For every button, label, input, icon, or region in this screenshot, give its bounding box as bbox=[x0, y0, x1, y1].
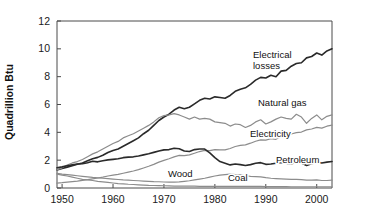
annotation-electricity: Electricity bbox=[250, 128, 291, 139]
x-tick-label-1980: 1980 bbox=[203, 193, 227, 205]
annotation-wood: Wood bbox=[168, 168, 193, 179]
chart-container: 024681012 195019601970198019902000 Quadr… bbox=[0, 0, 365, 223]
series-layer bbox=[57, 49, 332, 187]
annotation-natural-gas: Natural gas bbox=[258, 97, 307, 108]
y-tick-label-2: 2 bbox=[44, 154, 50, 166]
x-tick-label-1960: 1960 bbox=[101, 193, 125, 205]
x-tick-label-1950: 1950 bbox=[50, 193, 74, 205]
x-tick-label-1990: 1990 bbox=[254, 193, 278, 205]
x-tick-label-1970: 1970 bbox=[152, 193, 176, 205]
x-tick-label-2000: 2000 bbox=[305, 193, 329, 205]
y-tick-label-8: 8 bbox=[44, 70, 50, 82]
y-tick-label-0: 0 bbox=[44, 182, 50, 194]
annotation-electrical-losses: Electricallosses bbox=[253, 49, 292, 71]
y-axis-ticks: 024681012 bbox=[38, 15, 61, 194]
series-annotations: ElectricallossesElectricallossesNatural … bbox=[168, 49, 319, 183]
y-tick-label-6: 6 bbox=[44, 98, 50, 110]
y-axis-label: Quadrillion Btu bbox=[3, 64, 15, 140]
annotation-petroleum: Petroleum bbox=[276, 154, 319, 165]
y-tick-label-4: 4 bbox=[44, 126, 50, 138]
energy-consumption-line-chart: 024681012 195019601970198019902000 Quadr… bbox=[0, 0, 365, 223]
y-tick-label-12: 12 bbox=[38, 15, 50, 27]
annotation-coal: Coal bbox=[228, 172, 248, 183]
y-tick-label-10: 10 bbox=[38, 42, 50, 54]
